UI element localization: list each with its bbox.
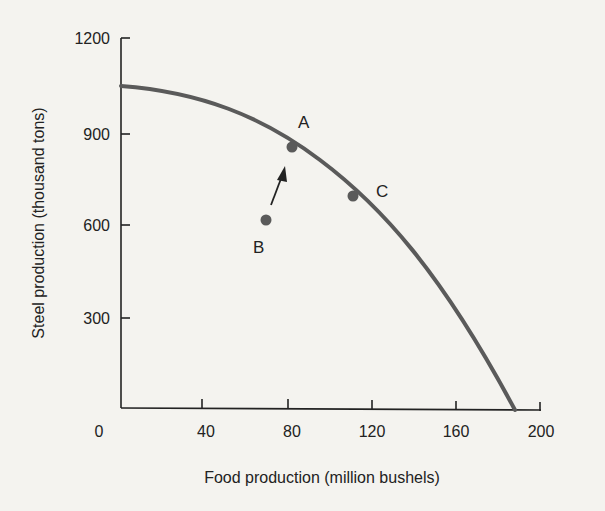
point-c bbox=[348, 191, 359, 202]
x-axis-title: Food production (million bushels) bbox=[204, 469, 440, 486]
point-b-label: B bbox=[253, 238, 264, 257]
x-tick-200: 200 bbox=[528, 423, 555, 440]
x-tick-40: 40 bbox=[197, 423, 215, 440]
x-tick-labels: 0 40 80 120 160 200 bbox=[95, 423, 555, 440]
x-axis bbox=[121, 408, 541, 410]
x-tick-160: 160 bbox=[443, 423, 470, 440]
ppf-curve bbox=[121, 86, 515, 410]
point-a-label: A bbox=[298, 113, 310, 132]
point-b bbox=[261, 215, 272, 226]
y-tick-900: 900 bbox=[83, 126, 110, 143]
y-axis-title: Steel production (thousand tons) bbox=[30, 107, 47, 338]
x-tick-120: 120 bbox=[359, 423, 386, 440]
x-tick-0: 0 bbox=[95, 423, 104, 440]
ppf-chart: 1200 900 600 300 0 40 80 120 160 200 Foo… bbox=[0, 0, 605, 511]
y-tick-labels: 1200 900 600 300 bbox=[74, 30, 110, 327]
point-c-label: C bbox=[376, 182, 388, 201]
y-tick-1200: 1200 bbox=[74, 30, 110, 47]
arrow-b-to-a bbox=[271, 166, 287, 205]
point-a bbox=[287, 142, 298, 153]
y-tick-300: 300 bbox=[83, 310, 110, 327]
x-tick-80: 80 bbox=[283, 423, 301, 440]
y-tick-600: 600 bbox=[83, 217, 110, 234]
